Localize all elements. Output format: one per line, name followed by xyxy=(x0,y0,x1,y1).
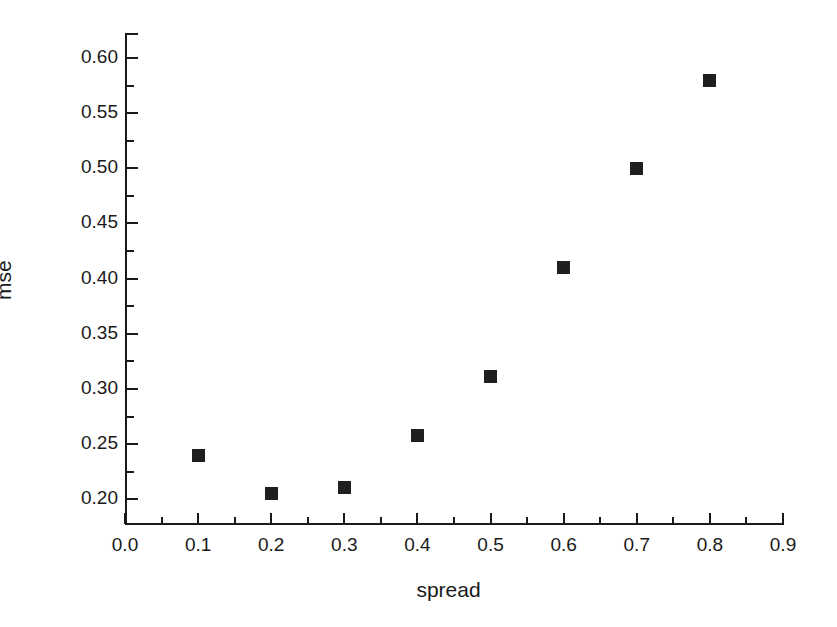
x-axis-tick-label: 0.2 xyxy=(236,534,306,556)
data-point-marker xyxy=(338,481,351,494)
y-axis-tick-label: 0.55 xyxy=(48,101,118,123)
x-axis-tick-label: 0.1 xyxy=(163,534,233,556)
y-axis-tick-label: 0.60 xyxy=(48,46,118,68)
x-axis-tick-label: 0.3 xyxy=(309,534,379,556)
scatter-plot-figure: 0.200.250.300.350.400.450.500.550.600.00… xyxy=(0,0,837,627)
y-axis-tick-label: 0.45 xyxy=(48,211,118,233)
data-point-marker xyxy=(630,162,643,175)
y-axis-title: mse xyxy=(0,260,16,300)
x-axis-tick-label: 0.5 xyxy=(456,534,526,556)
x-axis-tick-label: 0.8 xyxy=(675,534,745,556)
y-axis-tick-label: 0.40 xyxy=(48,267,118,289)
x-axis-tick-label: 0.0 xyxy=(90,534,160,556)
data-point-marker xyxy=(192,449,205,462)
x-axis-tick-label: 0.6 xyxy=(529,534,599,556)
x-axis-tick-label: 0.7 xyxy=(602,534,672,556)
data-point-marker xyxy=(703,74,716,87)
x-axis-title: spread xyxy=(0,578,837,602)
data-point-marker xyxy=(265,487,278,500)
x-axis-tick-label: 0.4 xyxy=(382,534,452,556)
y-axis-tick-label: 0.30 xyxy=(48,377,118,399)
y-axis-tick-label: 0.35 xyxy=(48,322,118,344)
data-point-marker xyxy=(484,370,497,383)
y-axis-tick-label: 0.50 xyxy=(48,156,118,178)
y-axis-tick-label: 0.25 xyxy=(48,432,118,454)
x-axis-tick-label: 0.9 xyxy=(748,534,818,556)
data-point-marker xyxy=(557,261,570,274)
y-axis-tick-label: 0.20 xyxy=(48,487,118,509)
data-point-marker xyxy=(411,429,424,442)
data-points-layer xyxy=(125,33,783,524)
